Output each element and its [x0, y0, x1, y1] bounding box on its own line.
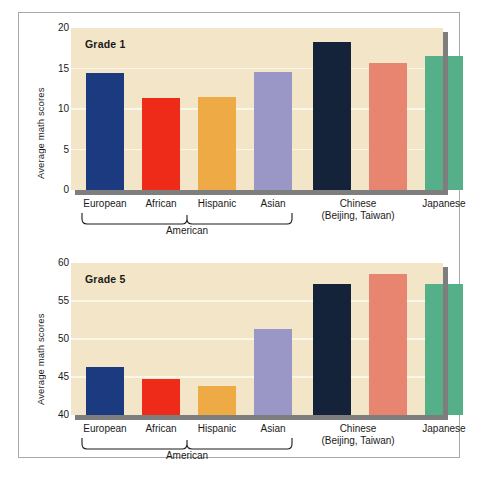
panel-title-grade-1: Grade 1 — [85, 38, 126, 50]
plot-shadow-bottom-grade-1 — [75, 190, 448, 195]
bar-chinese-beijing — [313, 42, 351, 190]
x-axis-label-european: European — [83, 423, 126, 435]
x-axis-label-european: European — [83, 198, 126, 210]
american-group-bracket-grade-1 — [81, 212, 293, 226]
plot-area-grade-1 — [71, 28, 443, 190]
x-axis-label-chinese: Chinese(Beijing, Taiwan) — [321, 423, 394, 446]
y-tick-label: 10 — [41, 104, 69, 114]
x-axis-label-main: Japanese — [422, 198, 465, 210]
x-axis-label-african: African — [145, 198, 176, 210]
x-axis-label-main: Hispanic — [198, 423, 236, 435]
x-axis-label-main: Asian — [260, 198, 285, 210]
x-axis-label-main: Hispanic — [198, 198, 236, 210]
bar-asian-american — [254, 329, 292, 415]
bar-african-american — [142, 98, 180, 190]
plot-shadow-right-grade-5 — [443, 267, 448, 419]
chart-panel-grade-1: Average math scores 05101520 Grade 1 Eur… — [19, 15, 461, 237]
x-axis-label-main: Chinese — [321, 198, 394, 210]
bar-chinese-taiwan — [369, 274, 407, 415]
bar-chinese-beijing — [313, 284, 351, 415]
x-axis-label-hispanic: Hispanic — [198, 423, 236, 435]
plot-shadow-bottom-grade-5 — [75, 415, 448, 420]
x-axis-label-asian: Asian — [260, 198, 285, 210]
bar-hispanic-american — [198, 97, 236, 190]
plot-area-grade-5 — [71, 263, 443, 415]
y-tick-label: 0 — [41, 185, 69, 195]
y-tick-label: 55 — [41, 296, 69, 306]
x-axis-label-main: Asian — [260, 423, 285, 435]
x-axis-label-main: Chinese — [321, 423, 394, 435]
bar-hispanic-american — [198, 386, 236, 415]
y-tick-label: 50 — [41, 334, 69, 344]
x-axis-label-hispanic: Hispanic — [198, 198, 236, 210]
american-group-bracket-grade-5 — [81, 437, 293, 451]
panel-title-grade-5: Grade 5 — [85, 273, 126, 285]
x-axis-label-main: Japanese — [422, 423, 465, 435]
x-axis-label-japanese: Japanese — [422, 198, 465, 210]
american-group-label-grade-1: American — [166, 225, 208, 236]
x-axis-label-main: European — [83, 423, 126, 435]
y-tick-label: 5 — [41, 145, 69, 155]
x-axis-label-main: African — [145, 423, 176, 435]
y-tick-label: 60 — [41, 258, 69, 268]
bar-asian-american — [254, 72, 292, 190]
x-axis-label-asian: Asian — [260, 423, 285, 435]
american-group-label-grade-5: American — [166, 450, 208, 461]
x-axis-label-chinese: Chinese(Beijing, Taiwan) — [321, 198, 394, 221]
x-axis-label-japanese: Japanese — [422, 423, 465, 435]
bar-chinese-taiwan — [369, 63, 407, 190]
y-tick-label: 15 — [41, 64, 69, 74]
x-axis-label-african: African — [145, 423, 176, 435]
y-tick-label: 40 — [41, 410, 69, 420]
y-tick-label: 45 — [41, 372, 69, 382]
x-axis-label-sub: (Beijing, Taiwan) — [321, 210, 394, 222]
figure-frame: Average math scores 05101520 Grade 1 Eur… — [18, 12, 460, 458]
y-tick-label: 20 — [41, 23, 69, 33]
plot-shadow-right-grade-1 — [443, 32, 448, 194]
chart-panel-grade-5: Average math scores 4045505560 Grade 5 E… — [19, 241, 461, 457]
bar-african-american — [142, 379, 180, 415]
bar-european-american — [86, 367, 124, 415]
x-axis-label-sub: (Beijing, Taiwan) — [321, 435, 394, 447]
x-axis-label-main: African — [145, 198, 176, 210]
bar-european-american — [86, 73, 124, 190]
x-axis-label-main: European — [83, 198, 126, 210]
